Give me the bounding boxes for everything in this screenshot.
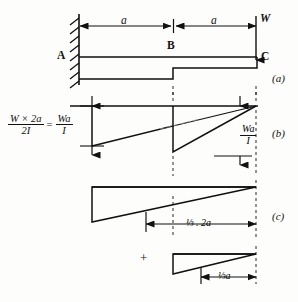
area-diagram-large (92, 187, 256, 222)
panel-a-drawing (70, 14, 257, 95)
area-diagram-small (173, 254, 256, 274)
figure-drawing (0, 0, 298, 302)
equation-equals-sign: = (44, 119, 56, 130)
equation-left-fraction: W × 2a 2I (8, 113, 44, 136)
load-label-w: W (260, 13, 270, 25)
centroid-label-small: ⅓a (218, 270, 231, 281)
equation-right-numerator: Wa (56, 113, 73, 125)
panel-b-drawing (70, 92, 258, 176)
tip-value-wa-over-i: Wa I (240, 124, 256, 146)
beam-bottom-edge (79, 57, 257, 79)
tip-value-numerator: Wa (240, 124, 256, 136)
figure-container: a a W A B C (a) W × 2a 2I = Wa I Wa I (b… (0, 0, 298, 302)
panel-tag-b: (b) (272, 128, 285, 139)
equation-right-fraction: Wa I (56, 113, 73, 136)
dimension-label-right-a: a (211, 15, 217, 27)
equation-left-denominator: 2I (8, 125, 44, 136)
tip-value-fraction: Wa I (240, 124, 256, 146)
panel-c-drawing (92, 180, 256, 284)
equation-right-denominator: I (56, 125, 73, 136)
equation-left-numerator: W × 2a (8, 113, 44, 125)
centroid-large-text: ⅓ . 2a (186, 217, 211, 228)
plus-sign-operator: + (140, 250, 147, 266)
centroid-label-large: ⅓ . 2a (186, 217, 211, 228)
point-label-b: B (167, 40, 175, 52)
point-label-a: A (57, 50, 65, 62)
centroid-small-text: ⅓a (218, 270, 231, 281)
mi-diagram-left-block (92, 106, 173, 146)
panel-tag-a: (a) (272, 73, 285, 84)
tip-value-denominator: I (240, 136, 256, 147)
dimension-label-left-a: a (121, 15, 127, 27)
wall-hatching (70, 18, 79, 88)
point-label-c: C (261, 51, 269, 63)
panel-tag-c: (c) (272, 211, 284, 222)
panel-b-equation: W × 2a 2I = Wa I (8, 113, 73, 136)
